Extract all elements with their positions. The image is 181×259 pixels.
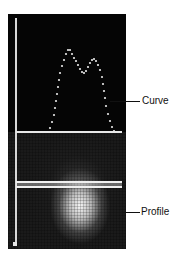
curve-dot [93, 58, 95, 60]
curve-label: Curve [142, 95, 169, 107]
curve-dot [51, 121, 53, 123]
curve-dot [53, 114, 55, 116]
curve-dot [57, 86, 59, 88]
curve-dot [63, 59, 65, 61]
curve-dot [73, 57, 75, 59]
curve-leader-line [110, 101, 140, 102]
curve-dot [58, 79, 60, 81]
curve-dot [49, 127, 51, 129]
curve-dot [89, 62, 91, 64]
curve-dot [67, 49, 69, 51]
curve-dot [54, 107, 56, 109]
profile-leader-line [122, 212, 140, 213]
curve-dot [103, 90, 105, 92]
curve-dot [102, 83, 104, 85]
curve-dot [71, 53, 73, 55]
curve-dot [87, 66, 89, 68]
curve-dot [75, 60, 77, 62]
curve-dot [59, 72, 61, 74]
curve-dot [97, 64, 99, 66]
image-panel [8, 14, 126, 249]
curve-dot [113, 130, 115, 132]
curve-dot [85, 70, 87, 72]
curve-dot [77, 64, 79, 66]
curve-dot [56, 93, 58, 95]
curve-dot [109, 120, 111, 122]
curve-dot [91, 59, 93, 61]
curve-dot [105, 105, 107, 107]
curve-dot [61, 65, 63, 67]
intensity-curve [8, 14, 126, 249]
profile-label: Profile [141, 206, 169, 218]
curve-dot [69, 49, 71, 51]
curve-dot [81, 71, 83, 73]
curve-dot [104, 97, 106, 99]
curve-dot [65, 53, 67, 55]
curve-dot [55, 100, 57, 102]
curve-dot [83, 72, 85, 74]
curve-dot [107, 113, 109, 115]
curve-dot [79, 68, 81, 70]
curve-dot [47, 131, 49, 133]
curve-dot [111, 126, 113, 128]
curve-dot [95, 60, 97, 62]
curve-dot [99, 69, 101, 71]
curve-dot [101, 76, 103, 78]
